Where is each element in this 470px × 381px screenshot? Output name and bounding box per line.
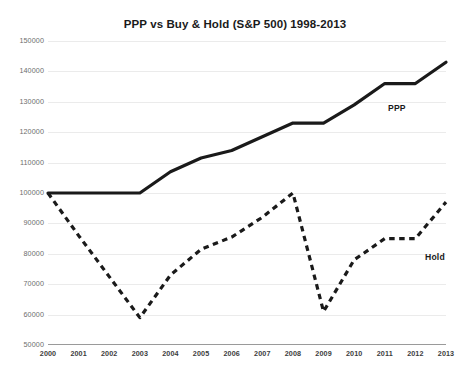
series-label-hold: Hold (425, 252, 445, 262)
y-tick-label: 100000 (19, 188, 44, 197)
y-tick-label: 110000 (20, 158, 44, 167)
x-tick-label: 2007 (254, 349, 270, 358)
x-tick-label: 2009 (315, 349, 331, 358)
x-tick-label: 2010 (346, 349, 362, 358)
x-tick-label: 2012 (407, 349, 423, 358)
series-line-hold (48, 193, 446, 318)
x-tick-label: 2011 (377, 349, 393, 358)
x-tick-label: 2004 (162, 349, 178, 358)
plot-area: PPP Hold (48, 41, 446, 345)
x-tick-label: 2006 (223, 349, 239, 358)
x-axis: 2000200120022003200420052006200720082009… (48, 349, 446, 363)
y-tick-label: 150000 (19, 36, 44, 45)
series-line-ppp (48, 62, 446, 193)
y-tick-label: 130000 (19, 97, 44, 106)
x-tick-label: 2002 (101, 349, 117, 358)
y-tick-label: 50000 (24, 340, 45, 349)
x-tick-label: 2013 (438, 349, 454, 358)
x-tick-label: 2008 (285, 349, 301, 358)
x-tick-label: 2003 (132, 349, 148, 358)
y-tick-label: 90000 (24, 218, 45, 227)
x-tick-label: 2005 (193, 349, 209, 358)
y-tick-label: 140000 (19, 66, 44, 75)
series-container (48, 41, 446, 345)
series-label-ppp: PPP (388, 103, 406, 113)
y-tick-label: 80000 (24, 249, 45, 258)
x-tick-label: 2001 (70, 349, 86, 358)
x-tick-label: 2000 (40, 349, 56, 358)
y-tick-label: 60000 (24, 310, 45, 319)
chart-screenshot: PPP vs Buy & Hold (S&P 500) 1998-2013 50… (0, 0, 470, 381)
y-axis: 5000060000700008000090000100000110000120… (0, 41, 44, 345)
y-tick-label: 120000 (19, 127, 44, 136)
chart-title: PPP vs Buy & Hold (S&P 500) 1998-2013 (0, 18, 470, 30)
y-tick-label: 70000 (24, 279, 45, 288)
